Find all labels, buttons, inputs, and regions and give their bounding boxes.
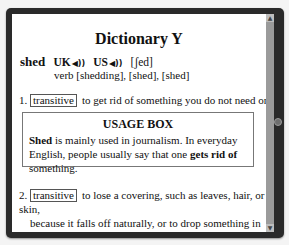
usage-box-text: Shed is mainly used in journalism. In ev… (29, 133, 253, 175)
pronunciation-uk-button[interactable]: UK◀)) (53, 56, 85, 68)
scroll-down-arrow-icon[interactable]: ▼ (266, 224, 274, 232)
side-round-button-icon[interactable] (274, 118, 282, 126)
scroll-up-arrow-icon[interactable]: ▲ (266, 14, 274, 22)
headword: shed (20, 54, 45, 69)
speaker-icon: ◀)) (109, 59, 122, 68)
definition-text-line: because it falls off naturally, or to dr… (19, 216, 265, 230)
definition-number: 1. (19, 94, 27, 106)
verb-forms: verb [shedding], [shed], [shed] (54, 69, 189, 81)
usage-bold-phrase: gets rid of (190, 148, 237, 160)
usage-bold-word: Shed (29, 134, 52, 146)
usage-text-part: something. (29, 162, 78, 174)
usage-box-title: USAGE BOX (23, 117, 253, 132)
definition-text: to get rid of something you do not need … (82, 94, 266, 106)
definition-number: 2. (19, 189, 27, 201)
definition-2: 2. transitiveto lose a covering, such as… (19, 188, 265, 232)
headword-line: shed UK◀)) US◀)) [ʃed] (20, 54, 153, 70)
definition-text-line: a natural way or by accident (19, 230, 265, 232)
pronunciation-us-button[interactable]: US◀)) (93, 56, 122, 68)
pronunciation-us-label: US (93, 56, 108, 68)
grammar-tag: transitive (30, 189, 77, 202)
speaker-icon: ◀)) (72, 59, 85, 68)
definition-1: 1. transitiveto get rid of something you… (19, 93, 265, 107)
usage-box: USAGE BOX Shed is mainly used in journal… (22, 112, 254, 167)
page-title: Dictionary Y (12, 30, 266, 48)
vertical-scrollbar[interactable]: ▲ ▼ (266, 14, 274, 232)
scroll-thumb[interactable] (266, 30, 274, 224)
pronunciation-uk-label: UK (53, 56, 70, 68)
dictionary-content: Dictionary Y shed UK◀)) US◀)) [ʃed] verb… (12, 14, 266, 232)
grammar-tag: transitive (30, 94, 77, 107)
scroll-track[interactable] (266, 22, 274, 30)
ipa-transcription: [ʃed] (131, 56, 153, 68)
